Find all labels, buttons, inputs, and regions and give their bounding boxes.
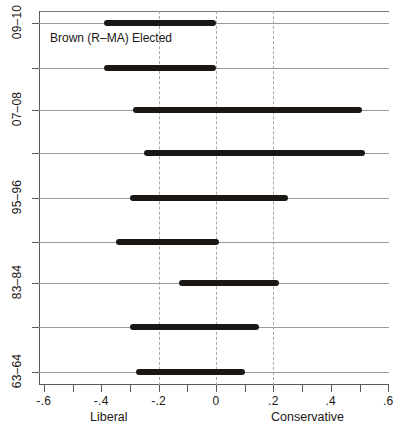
x-axis-tick-label: 0 <box>196 394 236 408</box>
x-axis-tick <box>159 385 160 392</box>
range-bar <box>130 195 288 201</box>
x-axis-tick-label: .6 <box>368 394 402 408</box>
y-axis-tick-label: 07–08 <box>10 74 24 144</box>
y-axis-tick <box>32 110 39 111</box>
x-axis-tick-label: -.2 <box>139 394 179 408</box>
x-axis-tick <box>360 385 361 392</box>
range-bar <box>116 239 219 245</box>
y-axis-tick <box>32 153 39 154</box>
range-bar <box>104 20 216 26</box>
y-axis-tick <box>32 283 39 284</box>
x-axis-tick <box>216 385 217 392</box>
x-axis-tick <box>388 385 389 392</box>
x-axis-tick <box>302 385 303 392</box>
x-axis-tick <box>44 385 45 392</box>
axis-pole-label-conservative: Conservative <box>271 410 344 424</box>
x-axis-tick <box>130 385 131 392</box>
y-axis-tick <box>32 372 39 373</box>
x-axis-tick-label: .4 <box>311 394 351 408</box>
x-axis-tick-label: -.4 <box>81 394 121 408</box>
y-axis-tick <box>32 68 39 69</box>
range-bar <box>104 65 216 71</box>
range-bar <box>133 107 363 113</box>
chart-figure: Brown (R–MA) Elected -.6-.4-.20.2.4.6 09… <box>0 0 402 431</box>
range-bar <box>144 150 365 156</box>
y-axis-tick-label: 63–64 <box>10 336 24 406</box>
y-axis-tick-label: 95–96 <box>10 162 24 232</box>
axis-pole-label-liberal: Liberal <box>90 410 128 424</box>
y-axis-tick-label: 83–84 <box>10 247 24 317</box>
x-axis-tick-label: .2 <box>253 394 293 408</box>
x-axis-tick <box>73 385 74 392</box>
y-axis-tick <box>32 327 39 328</box>
range-bar <box>136 369 245 375</box>
y-axis-tick <box>32 23 39 24</box>
y-axis-tick-label: 09–10 <box>10 0 24 57</box>
x-axis-tick <box>273 385 274 392</box>
x-axis-tick-label: -.6 <box>24 394 64 408</box>
range-bar <box>130 324 259 330</box>
y-axis-tick <box>32 242 39 243</box>
y-axis-tick <box>32 198 39 199</box>
range-bar <box>179 280 279 286</box>
x-axis-tick <box>101 385 102 392</box>
annotation-brown-elected: Brown (R–MA) Elected <box>50 31 172 45</box>
x-axis-tick <box>245 385 246 392</box>
x-axis-tick <box>187 385 188 392</box>
x-axis-tick <box>331 385 332 392</box>
